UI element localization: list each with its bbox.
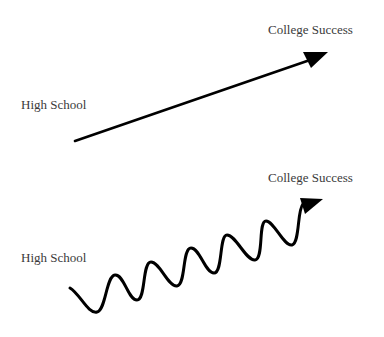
wavy-arrow [70, 198, 323, 312]
straight-arrow [75, 52, 328, 141]
arrowhead-icon [300, 198, 323, 214]
diagram-canvas [0, 0, 384, 337]
